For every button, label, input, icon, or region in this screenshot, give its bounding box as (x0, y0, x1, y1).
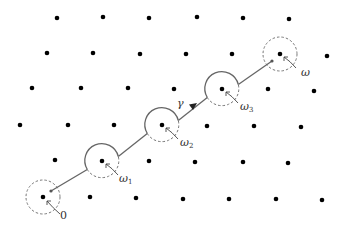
gamma-label: γ (177, 97, 184, 110)
lattice-point (205, 124, 210, 129)
lattice-point (184, 52, 189, 57)
omega1-solid-arc (85, 144, 118, 170)
lattice-point (53, 158, 58, 163)
lattice-point (45, 51, 50, 56)
lattice-point (147, 159, 152, 164)
lattice-point (181, 197, 186, 202)
lattice-points (18, 15, 330, 203)
path-segment-1 (118, 134, 147, 157)
lattice-point (88, 195, 93, 200)
lattice-point (227, 197, 232, 202)
lattice-point (112, 123, 117, 128)
lattice-point (160, 123, 165, 128)
lattice-point (30, 86, 35, 91)
path-start-point (49, 189, 52, 192)
lattice-point (241, 16, 246, 21)
lattice-point (287, 17, 292, 22)
lattice-point (320, 198, 325, 203)
lattice-point (312, 89, 317, 94)
lattice-point (193, 160, 198, 165)
path-segment-0 (51, 170, 87, 192)
omega3-solid-arc (205, 72, 238, 98)
lattice-point (138, 52, 143, 57)
lattice-point (266, 87, 271, 92)
lattice-point (286, 161, 291, 166)
lattice-diagram: 0 ω1 ω2 ω3 ω γ (0, 0, 346, 233)
origin-label: 0 (60, 209, 67, 222)
lattice-point (79, 86, 84, 91)
lattice-point (66, 123, 71, 128)
lattice-point (241, 160, 246, 165)
lattice-point (325, 54, 330, 59)
lattice-point (252, 124, 257, 129)
omega3-label: ω3 (240, 100, 253, 114)
omega-label: ω (301, 66, 310, 79)
lattice-point (101, 15, 106, 20)
omega2-label: ω2 (180, 136, 193, 150)
path-end-point (270, 59, 273, 62)
omega2-pointer (166, 128, 178, 139)
lattice-point (91, 51, 96, 56)
lattice-point (55, 16, 60, 21)
lattice-point (41, 195, 46, 200)
omega1-pointer (106, 164, 118, 175)
lattice-point (18, 123, 23, 128)
lattice-point (278, 52, 283, 57)
omega1-label: ω1 (119, 172, 132, 186)
lattice-point (126, 86, 131, 91)
pointer-arrows (47, 57, 296, 214)
lattice-point (299, 125, 304, 130)
origin-pointer (47, 201, 60, 214)
lattice-point (220, 87, 225, 92)
lattice-point (134, 196, 139, 201)
lattice-point (100, 159, 105, 164)
lattice-point (195, 15, 200, 20)
path-segment-3 (238, 61, 272, 85)
lattice-point (230, 52, 235, 57)
omega3-pointer (226, 92, 238, 103)
lattice-point (274, 197, 279, 202)
omega2-solid-arc (145, 108, 178, 134)
lattice-point (147, 16, 152, 21)
lattice-point (172, 87, 177, 92)
